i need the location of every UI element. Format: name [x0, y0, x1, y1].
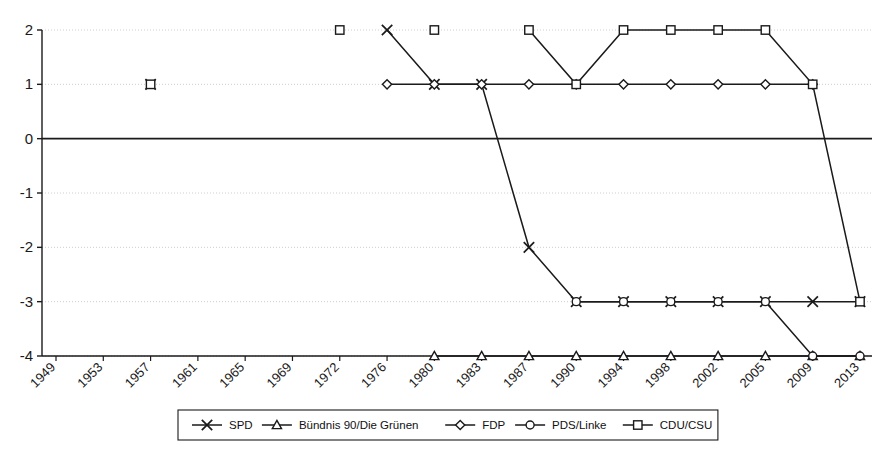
marker-circle-2009--4: [809, 352, 817, 360]
marker-circle-2005--3: [761, 298, 769, 306]
legend-label: FDP: [482, 419, 505, 431]
marker-circle-2013--4: [856, 352, 864, 360]
marker-square-1987-2: [525, 26, 533, 34]
chart-legend: SPDBündnis 90/Die GrünenFDPPDS/LinkeCDU/…: [178, 410, 718, 440]
marker-circle-1994--3: [620, 298, 628, 306]
marker-square-1980-2: [430, 26, 438, 34]
y-tick-label--1: -1: [20, 184, 33, 201]
legend-item-pds-linke[interactable]: PDS/Linke: [515, 419, 606, 431]
y-tick-label--2: -2: [20, 238, 33, 255]
chart-container: 210-1-2-3-4 1949195319571961196519691972…: [0, 0, 883, 454]
marker-square-2005-2: [761, 26, 769, 34]
marker-square-1957-1: [146, 80, 154, 88]
marker-square-2009-1: [808, 80, 816, 88]
legend-marker-square-icon: [634, 421, 642, 429]
marker-square-1998-2: [667, 26, 675, 34]
y-tick-label--4: -4: [20, 347, 33, 364]
marker-square-1972-2: [336, 26, 344, 34]
y-tick-label-1: 1: [25, 75, 33, 92]
marker-circle-1998--3: [667, 298, 675, 306]
legend-label: SPD: [229, 419, 253, 431]
marker-circle-2002--3: [714, 298, 722, 306]
y-tick-label-0: 0: [25, 130, 33, 147]
marker-circle-1990--3: [572, 298, 580, 306]
marker-square-2013--3: [856, 297, 864, 305]
legend-marker-circle-icon: [526, 421, 534, 429]
y-tick-label-2: 2: [25, 21, 33, 38]
political-positions-line-chart: 210-1-2-3-4 1949195319571961196519691972…: [0, 0, 883, 454]
legend-label: PDS/Linke: [552, 419, 606, 431]
y-tick-label--3: -3: [20, 293, 33, 310]
marker-square-1994-2: [619, 26, 627, 34]
marker-square-1990-1: [572, 80, 580, 88]
legend-item-cdu-csu[interactable]: CDU/CSU: [623, 419, 712, 431]
legend-label: CDU/CSU: [660, 419, 712, 431]
marker-square-2002-2: [714, 26, 722, 34]
legend-label: Bündnis 90/Die Grünen: [299, 419, 419, 431]
